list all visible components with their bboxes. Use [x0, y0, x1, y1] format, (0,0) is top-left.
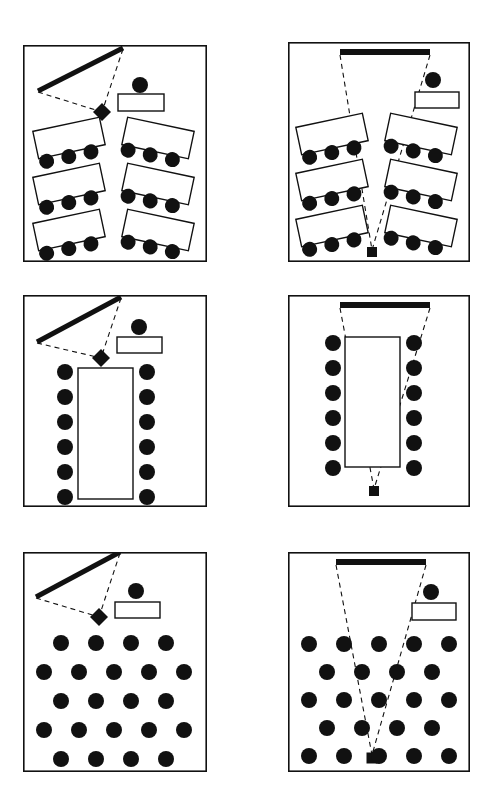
seat-marker — [371, 748, 387, 764]
panel-canvas — [288, 42, 470, 262]
seat-marker — [53, 693, 69, 709]
seat-marker — [139, 389, 155, 405]
seat-marker — [406, 748, 422, 764]
seat-marker — [441, 692, 457, 708]
seat-marker — [176, 664, 192, 680]
seat-marker — [325, 385, 341, 401]
panel-canvas — [23, 552, 207, 772]
room-layout-theatre-seating-projection-screen — [288, 552, 470, 772]
seat-marker — [71, 722, 87, 738]
seat-marker — [141, 722, 157, 738]
seat-marker — [53, 751, 69, 767]
seat-marker — [158, 751, 174, 767]
presenter-marker — [423, 584, 439, 600]
projector-square-icon — [367, 247, 377, 257]
seat-marker — [389, 664, 405, 680]
seat-marker — [406, 360, 422, 376]
seat-marker — [57, 414, 73, 430]
presenter-marker — [132, 77, 148, 93]
seat-marker — [123, 635, 139, 651]
seat-marker — [57, 389, 73, 405]
panel-canvas — [288, 295, 470, 507]
room-layout-boardroom-table-flipchart — [23, 295, 207, 507]
panel-canvas — [23, 295, 207, 507]
seat-marker — [406, 692, 422, 708]
seat-marker — [57, 364, 73, 380]
room-outline — [24, 553, 206, 771]
seat-marker — [158, 693, 174, 709]
room-layout-panel-grid — [0, 0, 498, 789]
seat-marker — [139, 439, 155, 455]
seat-marker — [406, 385, 422, 401]
presenter-marker — [425, 72, 441, 88]
seat-marker — [325, 360, 341, 376]
seat-marker — [371, 692, 387, 708]
seat-marker — [319, 720, 335, 736]
lectern-desk — [412, 603, 456, 620]
seat-marker — [301, 748, 317, 764]
seat-marker — [371, 636, 387, 652]
seat-marker — [106, 664, 122, 680]
table-top — [78, 368, 133, 499]
seat-marker — [336, 748, 352, 764]
table-top — [345, 337, 400, 467]
lectern-desk — [117, 337, 162, 353]
lectern-desk — [415, 92, 459, 108]
seat-marker — [57, 439, 73, 455]
seat-marker — [406, 636, 422, 652]
seat-marker — [325, 460, 341, 476]
seat-marker — [123, 751, 139, 767]
seat-marker — [301, 692, 317, 708]
seat-marker — [406, 335, 422, 351]
seat-marker — [176, 722, 192, 738]
seat-marker — [336, 692, 352, 708]
panel-canvas — [23, 45, 207, 262]
seat-marker — [123, 693, 139, 709]
seat-marker — [441, 748, 457, 764]
seat-marker — [406, 410, 422, 426]
seat-marker — [325, 435, 341, 451]
table-group-1 — [345, 337, 400, 467]
table-group-1 — [78, 368, 133, 499]
lectern-desk — [118, 94, 164, 111]
lectern-desk — [115, 602, 160, 618]
room-layout-classroom-angled-tables-flipchart — [23, 45, 207, 262]
seat-marker — [88, 751, 104, 767]
seat-marker — [406, 460, 422, 476]
seat-marker — [325, 410, 341, 426]
seat-marker — [71, 664, 87, 680]
seat-marker — [57, 464, 73, 480]
seat-marker — [106, 722, 122, 738]
seat-marker — [424, 664, 440, 680]
room-layout-boardroom-table-projection-screen — [288, 295, 470, 507]
seat-marker — [139, 414, 155, 430]
seat-marker — [336, 636, 352, 652]
seat-marker — [53, 635, 69, 651]
projector-square-icon — [369, 486, 379, 496]
seat-marker — [424, 720, 440, 736]
room-layout-classroom-angled-tables-projection-screen — [288, 42, 470, 262]
seat-marker — [354, 720, 370, 736]
seat-marker — [389, 720, 405, 736]
seat-marker — [325, 335, 341, 351]
seat-marker — [406, 435, 422, 451]
room-outline — [289, 553, 469, 771]
seat-marker — [141, 664, 157, 680]
seat-marker — [158, 635, 174, 651]
seat-marker — [88, 635, 104, 651]
seat-marker — [139, 364, 155, 380]
seat-marker — [57, 489, 73, 505]
seat-marker — [301, 636, 317, 652]
seat-marker — [319, 664, 335, 680]
seat-marker — [139, 489, 155, 505]
seat-marker — [88, 693, 104, 709]
presenter-marker — [131, 319, 147, 335]
room-layout-theatre-seating-flipchart — [23, 552, 207, 772]
seat-marker — [36, 722, 52, 738]
seat-marker — [139, 464, 155, 480]
seat-marker — [354, 664, 370, 680]
seat-marker — [441, 636, 457, 652]
panel-canvas — [288, 552, 470, 772]
seat-marker — [36, 664, 52, 680]
presenter-marker — [128, 583, 144, 599]
